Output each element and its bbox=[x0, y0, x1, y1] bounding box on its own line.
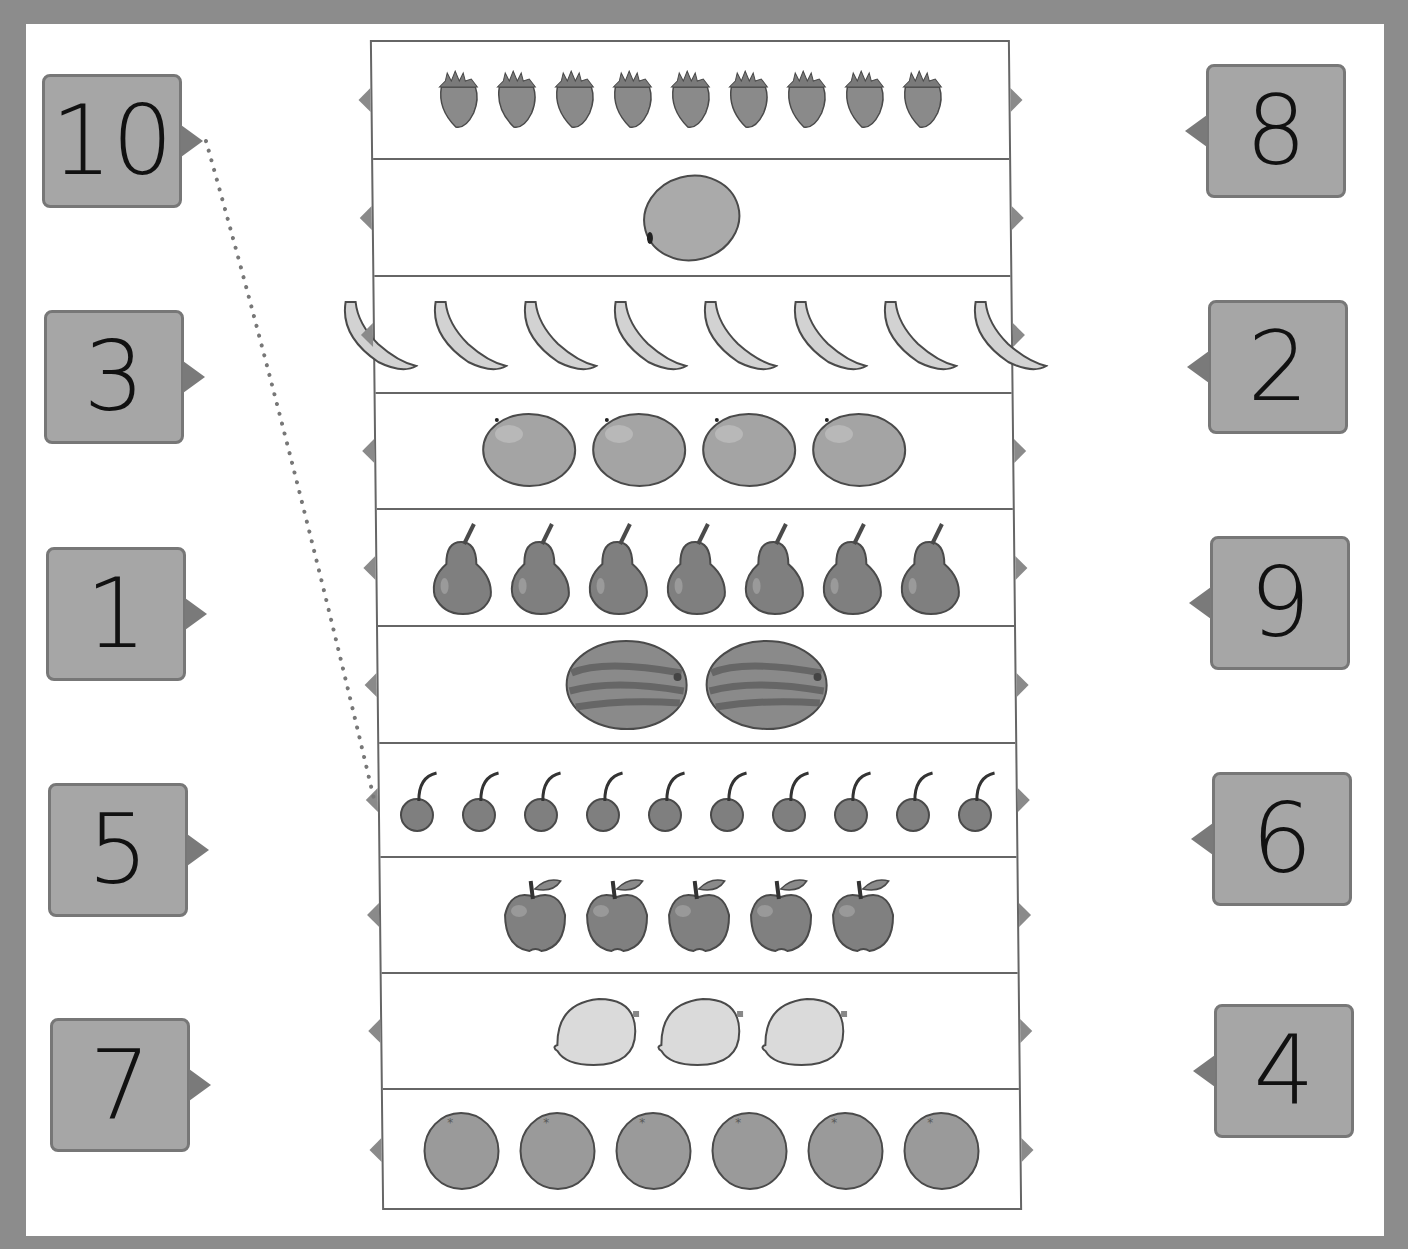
connector-tab-icon[interactable] bbox=[181, 125, 203, 157]
number-box-left-3[interactable]: 1 bbox=[46, 547, 186, 681]
banana-icon bbox=[338, 296, 419, 374]
connector-tab-icon[interactable] bbox=[360, 206, 372, 230]
mango-icon bbox=[699, 410, 800, 492]
number-box-left-1[interactable]: 10 bbox=[42, 74, 182, 208]
connector-tab-icon[interactable] bbox=[367, 903, 379, 927]
banana-icon bbox=[428, 296, 509, 374]
connector-tab-icon[interactable] bbox=[1013, 323, 1025, 347]
strawberry-icon bbox=[551, 69, 598, 131]
fruit-row bbox=[372, 42, 1009, 160]
fruit-row bbox=[374, 277, 1011, 394]
number-label: 1 bbox=[85, 558, 146, 670]
cherry-icon bbox=[396, 767, 441, 833]
cherry-icon bbox=[582, 767, 627, 833]
lemon-icon bbox=[757, 993, 852, 1069]
number-box-right-4[interactable]: 6 bbox=[1212, 772, 1352, 906]
connector-tab-icon[interactable] bbox=[1014, 439, 1026, 463]
banana-icon bbox=[968, 296, 1049, 374]
connector-tab-icon[interactable] bbox=[183, 361, 205, 393]
number-label: 6 bbox=[1251, 783, 1312, 895]
strawberry-icon bbox=[435, 69, 482, 131]
svg-text:*: * bbox=[447, 1116, 453, 1130]
lemon-icon bbox=[653, 993, 748, 1069]
connector-tab-icon[interactable] bbox=[362, 439, 374, 463]
banana-icon bbox=[878, 296, 959, 374]
connector-tab-icon[interactable] bbox=[1019, 903, 1031, 927]
pear-icon bbox=[894, 520, 965, 616]
lemon-icon bbox=[549, 993, 644, 1069]
orange-icon: * bbox=[709, 1109, 790, 1191]
connector-tab-icon[interactable] bbox=[1191, 823, 1213, 855]
number-label: 3 bbox=[83, 321, 144, 433]
connector-tab-icon[interactable] bbox=[1185, 115, 1207, 147]
worksheet: 10 3 1 5 7 8 2 9 6 4 bbox=[26, 24, 1384, 1236]
number-box-right-3[interactable]: 9 bbox=[1210, 536, 1350, 670]
number-box-left-4[interactable]: 5 bbox=[48, 783, 188, 917]
number-label: 2 bbox=[1247, 311, 1308, 423]
watermelon-icon bbox=[563, 639, 690, 731]
banana-icon bbox=[608, 296, 689, 374]
pear-icon bbox=[504, 520, 575, 616]
pear-icon bbox=[426, 520, 497, 616]
connector-tab-icon[interactable] bbox=[364, 673, 376, 697]
connector-tab-icon[interactable] bbox=[1010, 88, 1022, 112]
connector-tab-icon[interactable] bbox=[369, 1138, 381, 1162]
pear-icon bbox=[816, 520, 887, 616]
pear-icon bbox=[660, 520, 731, 616]
number-label: 9 bbox=[1249, 547, 1310, 659]
strawberry-icon bbox=[783, 69, 830, 131]
number-label: 4 bbox=[1253, 1015, 1314, 1127]
connector-tab-icon[interactable] bbox=[185, 598, 207, 630]
apple-icon bbox=[499, 875, 572, 955]
number-box-left-5[interactable]: 7 bbox=[50, 1018, 190, 1152]
cherry-icon bbox=[644, 767, 689, 833]
pear-icon bbox=[738, 520, 809, 616]
connector-tab-icon[interactable] bbox=[187, 834, 209, 866]
number-box-right-1[interactable]: 8 bbox=[1206, 64, 1346, 198]
svg-text:*: * bbox=[831, 1116, 837, 1130]
strawberry-icon bbox=[725, 69, 772, 131]
strawberry-icon bbox=[609, 69, 656, 131]
cherry-icon bbox=[706, 767, 751, 833]
fruit-row: ****** bbox=[383, 1090, 1020, 1210]
connector-tab-icon[interactable] bbox=[368, 1019, 380, 1043]
cherry-icon bbox=[892, 767, 937, 833]
number-label: 5 bbox=[87, 794, 148, 906]
apple-icon bbox=[827, 875, 900, 955]
number-box-left-2[interactable]: 3 bbox=[44, 310, 184, 444]
connector-tab-icon[interactable] bbox=[1189, 587, 1211, 619]
orange-icon: * bbox=[517, 1109, 598, 1191]
connector-tab-icon[interactable] bbox=[1015, 556, 1027, 580]
kiwi-icon bbox=[639, 172, 744, 264]
fruit-row bbox=[376, 394, 1013, 510]
apple-icon bbox=[663, 875, 736, 955]
fruit-row bbox=[373, 160, 1010, 277]
fruit-row bbox=[382, 974, 1019, 1090]
banana-icon bbox=[518, 296, 599, 374]
number-label: 7 bbox=[89, 1029, 150, 1141]
apple-icon bbox=[745, 875, 818, 955]
cherry-icon bbox=[954, 767, 999, 833]
banana-icon bbox=[698, 296, 779, 374]
fruit-row bbox=[379, 744, 1016, 858]
connector-tab-icon[interactable] bbox=[1016, 673, 1028, 697]
connector-tab-icon[interactable] bbox=[1018, 788, 1030, 812]
number-box-right-2[interactable]: 2 bbox=[1208, 300, 1348, 434]
number-box-right-5[interactable]: 4 bbox=[1214, 1004, 1354, 1138]
connector-tab-icon[interactable] bbox=[1020, 1019, 1032, 1043]
cherry-icon bbox=[830, 767, 875, 833]
svg-text:*: * bbox=[639, 1116, 645, 1130]
connector-tab-icon[interactable] bbox=[361, 323, 373, 347]
connector-tab-icon[interactable] bbox=[189, 1069, 211, 1101]
connector-tab-icon[interactable] bbox=[363, 556, 375, 580]
connector-tab-icon[interactable] bbox=[1193, 1055, 1215, 1087]
apple-icon bbox=[581, 875, 654, 955]
connector-tab-icon[interactable] bbox=[366, 788, 378, 812]
connector-tab-icon[interactable] bbox=[1012, 206, 1024, 230]
connector-tab-icon[interactable] bbox=[1187, 351, 1209, 383]
strawberry-icon bbox=[841, 69, 888, 131]
connector-tab-icon[interactable] bbox=[1021, 1138, 1033, 1162]
number-label: 10 bbox=[51, 85, 173, 197]
connector-tab-icon[interactable] bbox=[358, 88, 370, 112]
fruit-row bbox=[380, 858, 1017, 974]
